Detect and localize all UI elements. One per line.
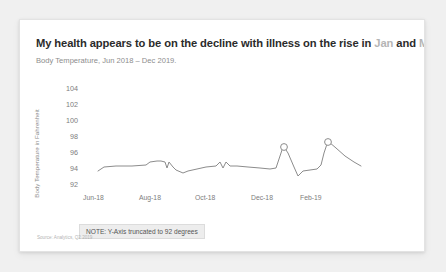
- title-highlight-mar: Mar: [419, 37, 425, 49]
- source-caption: Source: Analytics, Q2 2019: [37, 235, 92, 240]
- title-prefix: My health appears to be on the decline w…: [36, 37, 374, 49]
- page-title: My health appears to be on the decline w…: [36, 37, 425, 49]
- chart-subtitle: Body Temperature, Jun 2018 – Dec 2019.: [36, 56, 176, 65]
- title-mid: and: [393, 37, 419, 49]
- line-chart-svg: [20, 72, 425, 232]
- temperature-line: [98, 142, 361, 176]
- chart-card: My health appears to be on the decline w…: [19, 19, 425, 252]
- plot-area: Body Temperature in Fahrenheit 104102100…: [20, 72, 425, 232]
- data-point-marker: [325, 139, 332, 146]
- title-highlight-jan: Jan: [374, 37, 393, 49]
- chart-note: NOTE: Y-Axis truncated to 92 degrees: [79, 224, 205, 239]
- screenshot-canvas: My health appears to be on the decline w…: [0, 0, 446, 272]
- highlight-markers: [281, 139, 332, 151]
- data-point-marker: [281, 144, 288, 151]
